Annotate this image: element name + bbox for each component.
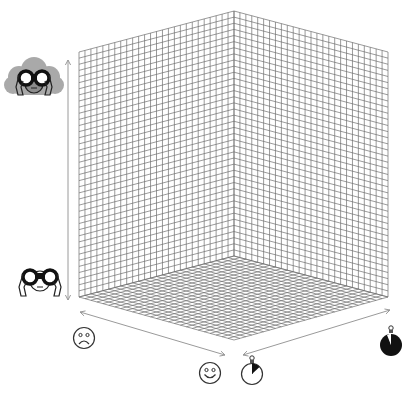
- smiley-face-icon: [198, 361, 222, 385]
- cloudy-binoculars-icon: [3, 55, 65, 103]
- sad-face-icon: [72, 326, 96, 350]
- cube-diagram: [0, 0, 412, 396]
- binoculars-icon: [15, 265, 65, 301]
- timer-small-icon: [240, 354, 264, 388]
- timer-large-icon: [378, 324, 404, 358]
